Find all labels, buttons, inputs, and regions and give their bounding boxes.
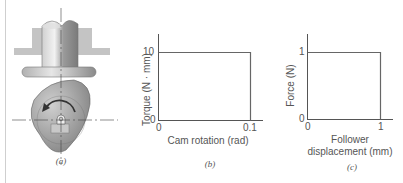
caption-a: (a)	[48, 156, 74, 166]
x-axis-label: Follower displacement (mm)	[300, 134, 400, 158]
torque-curve	[159, 53, 251, 121]
y-axis-label: Torque (N · mm)	[141, 50, 152, 130]
pivot-base	[51, 124, 69, 133]
follower-face	[22, 67, 96, 77]
x-tick-0: 0	[305, 122, 311, 132]
x-axis-label: Cam rotation (rad)	[160, 135, 256, 147]
x-tick-0: 0	[156, 123, 162, 133]
x-axis-label-line-1: Follower	[300, 134, 400, 146]
force-curve	[308, 53, 381, 120]
x-axis-label-line-2: displacement (mm)	[300, 146, 400, 158]
y-tick-1: 1	[299, 47, 305, 57]
caption-c: (c)	[342, 162, 362, 172]
x-tick-0.1: 0.1	[243, 123, 257, 133]
y-axis-label: Force (N)	[285, 56, 296, 116]
x-tick-1: 1	[378, 122, 384, 132]
y-tick-0: 0	[299, 114, 305, 124]
caption-b: (b)	[200, 159, 220, 169]
